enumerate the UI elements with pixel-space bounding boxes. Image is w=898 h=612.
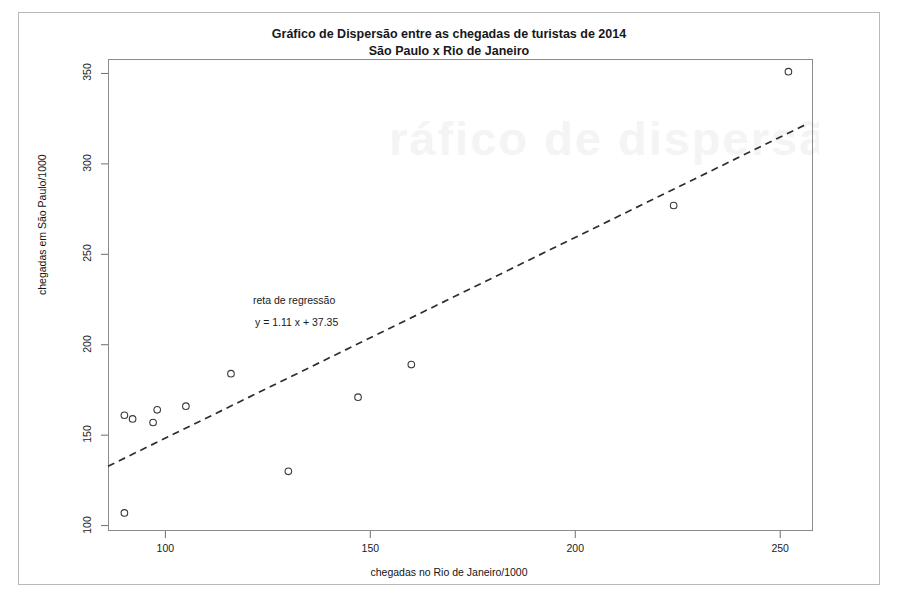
regression-annotation-equation: y = 1.11 x + 37.35 <box>253 311 338 333</box>
x-tick-label-3: 250 <box>771 542 789 554</box>
y-tick-label-2: 200 <box>81 331 93 357</box>
y-tick-label-1: 150 <box>81 421 93 447</box>
y-axis-title: chegadas em São Paulo/1000 <box>36 154 48 295</box>
y-tick-label-5: 350 <box>81 59 93 85</box>
chart-title-line-1: Gráfico de Dispersão entre as chegadas d… <box>0 26 898 43</box>
plot-frame <box>108 59 813 531</box>
y-tick-label-4: 300 <box>81 150 93 176</box>
chart-title-line-2: São Paulo x Rio de Janeiro <box>0 43 898 60</box>
x-axis-title: chegadas no Rio de Janeiro/1000 <box>0 566 898 578</box>
regression-annotation-label: reta de regressão <box>253 289 338 311</box>
regression-annotation: reta de regressão y = 1.11 x + 37.35 <box>253 289 338 333</box>
chart-title-block: Gráfico de Dispersão entre as chegadas d… <box>0 26 898 60</box>
x-tick-label-0: 100 <box>157 542 175 554</box>
y-tick-label-0: 100 <box>81 512 93 538</box>
y-tick-label-3: 250 <box>81 240 93 266</box>
x-tick-label-1: 150 <box>362 542 380 554</box>
x-tick-label-2: 200 <box>567 542 585 554</box>
